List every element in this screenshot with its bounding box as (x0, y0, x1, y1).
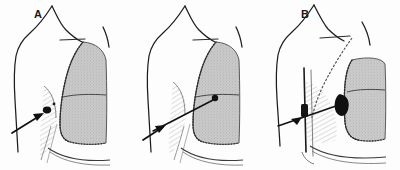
rib-hatching (305, 82, 337, 143)
neck-outline (314, 5, 344, 41)
panel-a: A (0, 0, 133, 170)
costophrenic-angle-line (302, 152, 314, 164)
neck-outline (185, 6, 215, 42)
rib-hatching (40, 88, 57, 160)
lung-silhouette (60, 42, 107, 144)
intrapulmonary-lesion (212, 95, 218, 101)
diaphragm-curve (48, 148, 110, 161)
retracted-lung-silhouette (344, 58, 386, 141)
panel-a-drawing (0, 0, 133, 170)
chest-tube-hub (301, 104, 308, 117)
clavicle-line (193, 39, 218, 40)
panel-b-drawing (133, 0, 266, 170)
panel-label-a: A (34, 9, 42, 20)
medical-figure: A (0, 0, 400, 170)
lung-silhouette (193, 42, 240, 144)
upper-arm-outline (103, 27, 109, 47)
lesion-satellite-dot (53, 103, 56, 106)
panel-b: B (133, 0, 266, 170)
neck-outline (52, 6, 82, 42)
pleural-lesion (43, 107, 51, 114)
clavicle-line (60, 39, 85, 40)
clavicle-line (320, 36, 350, 38)
diaphragm-curve (181, 148, 243, 161)
rib-hatching (169, 84, 186, 156)
panel-c-drawing (266, 0, 400, 170)
upper-arm-outline (362, 22, 370, 45)
upper-arm-outline (236, 27, 242, 47)
panel-c: C (266, 0, 399, 170)
